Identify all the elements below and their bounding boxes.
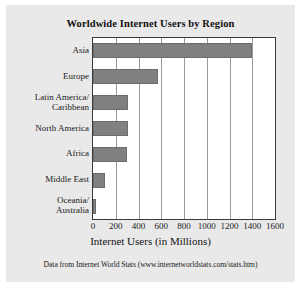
y-axis-label: North America (6, 123, 89, 133)
y-axis-label: Europe (6, 71, 89, 81)
bar[interactable] (93, 69, 158, 84)
y-axis-label-line: Africa (6, 148, 89, 158)
source-note: Data from Internet World Stats (www.inte… (6, 260, 295, 269)
x-axis-tick-label: 600 (155, 221, 169, 231)
bars-layer (93, 38, 275, 219)
bar[interactable] (93, 173, 105, 188)
bar-row (93, 69, 275, 84)
x-axis-tick-label: 200 (109, 221, 123, 231)
bar-row (93, 43, 275, 58)
y-axis-label-line: Australia (6, 205, 89, 215)
x-axis-tick-label: 1400 (243, 221, 261, 231)
x-axis-label: Internet Users (in Millions) (6, 235, 295, 247)
chart-figure: Worldwide Internet Users by Region AsiaE… (6, 5, 295, 282)
x-axis-tick-label: 1000 (198, 221, 216, 231)
y-axis-label: Middle East (6, 174, 89, 184)
bar[interactable] (93, 199, 96, 214)
bar-row (93, 121, 275, 136)
x-axis-tick-label: 400 (132, 221, 146, 231)
bar-row (93, 147, 275, 162)
chart-title: Worldwide Internet Users by Region (6, 18, 295, 29)
bar[interactable] (93, 95, 128, 110)
bar[interactable] (93, 147, 127, 162)
x-axis-tick-label: 0 (91, 221, 96, 231)
y-axis-label-line: Middle East (6, 174, 89, 184)
y-axis-label-line: Asia (6, 45, 89, 55)
y-axis-label-line: Latin America/ (6, 92, 89, 102)
bar[interactable] (93, 121, 128, 136)
x-axis-ticks: 02004006008001000120014001600 (92, 221, 276, 235)
y-axis-label: Asia (6, 45, 89, 55)
plot-area (92, 37, 276, 220)
y-axis-label: Oceania/Australia (6, 195, 89, 215)
y-axis-label-line: Europe (6, 71, 89, 81)
x-axis-tick-label: 1600 (266, 221, 284, 231)
y-axis-label: Africa (6, 148, 89, 158)
bar-row (93, 199, 275, 214)
y-axis-label-line: Oceania/ (6, 195, 89, 205)
x-axis-tick-label: 800 (177, 221, 191, 231)
y-axis-label-line: North America (6, 123, 89, 133)
y-axis-labels: AsiaEuropeLatin America/CaribbeanNorth A… (6, 37, 89, 220)
bar-row (93, 173, 275, 188)
bar-row (93, 95, 275, 110)
x-axis-tick-label: 1200 (221, 221, 239, 231)
y-axis-label-line: Caribbean (6, 102, 89, 112)
y-axis-label: Latin America/Caribbean (6, 92, 89, 112)
bar[interactable] (93, 43, 252, 58)
